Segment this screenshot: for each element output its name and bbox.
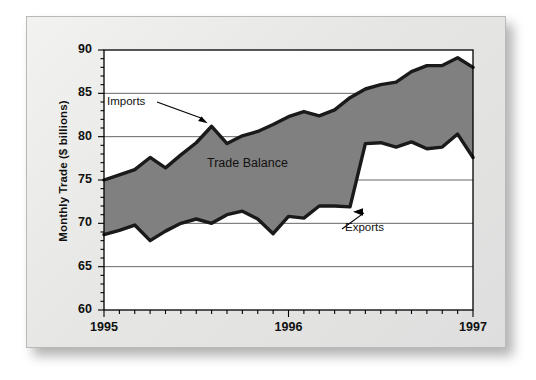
chart-card: Monthly Trade ($ billions) 6065707580859… xyxy=(26,16,506,348)
annotation-imports-label: Imports xyxy=(107,95,145,107)
y-axis-title: Monthly Trade ($ billions) xyxy=(57,73,69,269)
annotation-exports-label: Exports xyxy=(345,221,384,233)
y-tick-label: 70 xyxy=(62,215,92,229)
y-tick-label: 75 xyxy=(62,172,92,186)
y-tick-label: 65 xyxy=(62,259,92,273)
x-tick-label: 1995 xyxy=(74,320,134,334)
y-tick-label: 80 xyxy=(62,129,92,143)
y-tick-label: 85 xyxy=(62,85,92,99)
y-tick-label: 90 xyxy=(62,42,92,56)
annotation-trade-balance-label: Trade Balance xyxy=(207,156,288,170)
y-tick-label: 60 xyxy=(62,302,92,316)
x-tick-label: 1996 xyxy=(259,320,319,334)
x-tick-label: 1997 xyxy=(443,320,503,334)
chart-figure: Monthly Trade ($ billions) 6065707580859… xyxy=(27,17,505,347)
trade-balance-area-chart xyxy=(27,17,505,347)
chart-screenshot: Monthly Trade ($ billions) 6065707580859… xyxy=(0,0,536,380)
